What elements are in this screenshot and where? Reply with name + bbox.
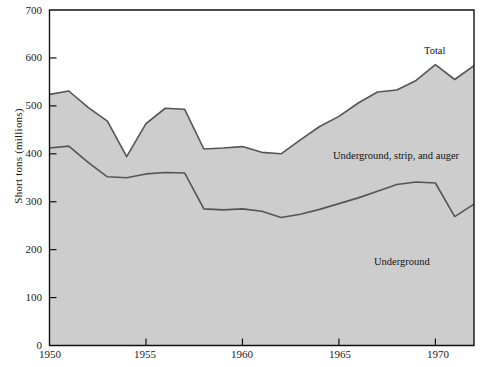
y-tick-label-0: 0 xyxy=(12,339,42,351)
y-tick-label-400: 400 xyxy=(12,147,42,159)
annotation-total: Total xyxy=(424,45,445,56)
x-tick-label-1950: 1950 xyxy=(39,348,61,360)
y-tick-label-600: 600 xyxy=(12,51,42,63)
x-tick-label-1970: 1970 xyxy=(427,348,449,360)
y-tick-label-100: 100 xyxy=(12,291,42,303)
x-tick-label-1955: 1955 xyxy=(134,348,156,360)
y-tick-label-200: 200 xyxy=(12,243,42,255)
x-tick-label-1965: 1965 xyxy=(329,348,351,360)
y-tick-label-700: 700 xyxy=(12,4,42,16)
coal-production-area-chart: Short tons (millions) 700 600 500 400 30… xyxy=(0,0,482,367)
plot-area xyxy=(50,65,475,346)
chart-canvas xyxy=(0,0,482,367)
x-tick-label-1960: 1960 xyxy=(231,348,253,360)
annotation-underground: Underground xyxy=(374,256,430,267)
annotation-underground-strip-and-auger: Underground, strip, and auger xyxy=(333,150,459,161)
y-tick-label-500: 500 xyxy=(12,99,42,111)
y-tick-label-300: 300 xyxy=(12,195,42,207)
